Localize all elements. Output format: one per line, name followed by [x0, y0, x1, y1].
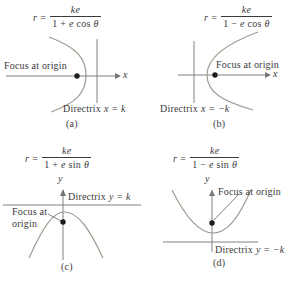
equation-b-lhs: r: [204, 12, 208, 23]
caption-b: (b): [213, 118, 225, 129]
directrix-label-b: Directrixx = −k: [160, 103, 229, 115]
focus-dot-b: [212, 72, 217, 77]
equation-b-denominator: 1 − e cos θ: [221, 16, 272, 29]
parabola-a: [49, 37, 86, 112]
equation-b-fraction: ke 1 − e cos θ: [221, 5, 272, 29]
equation-a-numerator: ke: [67, 5, 84, 16]
equation-a: r= ke 1 + e cos θ: [33, 5, 101, 29]
equation-c-denominator: 1 + e sin θ: [42, 157, 91, 170]
equation-a-denominator: 1 + e cos θ: [50, 16, 101, 29]
focus-label-b: Focus at origin: [216, 59, 279, 71]
axis-label-b: x: [273, 68, 278, 80]
parabola-b: [207, 32, 258, 110]
directrix-label-c: Directrixy = k: [68, 191, 131, 203]
equation-c-fraction: ke 1 + e sin θ: [42, 146, 91, 170]
caption-a: (a): [66, 118, 78, 129]
axis-label-a: x: [123, 69, 128, 81]
focus-dot-c: [60, 219, 65, 224]
equation-d-numerator: ke: [206, 146, 223, 157]
y-axis-arrow-c: [60, 189, 66, 196]
axis-label-c: y: [58, 173, 63, 185]
equation-b-rel: =: [211, 12, 217, 23]
x-axis-arrow-b: [265, 72, 271, 78]
equation-d: r= ke 1 − e sin θ: [173, 146, 239, 170]
equation-c-numerator: ke: [58, 146, 75, 157]
focus-label-d: Focus at origin: [218, 186, 281, 198]
axis-label-d: y: [205, 173, 210, 185]
focus-dot-a: [74, 73, 79, 78]
equation-d-fraction: ke 1 − e sin θ: [190, 146, 239, 170]
equation-a-lhs: r: [33, 12, 37, 23]
equation-b-numerator: ke: [238, 5, 255, 16]
x-axis-arrow-a: [115, 73, 121, 79]
directrix-label-a: Directrixx = k: [63, 103, 126, 115]
focus-label-c: Focus at origin: [12, 206, 47, 230]
equation-d-rel: =: [180, 153, 186, 164]
equation-a-rel: =: [40, 12, 46, 23]
equation-b: r= ke 1 − e cos θ: [204, 5, 272, 29]
caption-d: (d): [213, 257, 225, 268]
equation-d-denominator: 1 − e sin θ: [190, 157, 239, 170]
equation-d-lhs: r: [173, 153, 177, 164]
focus-dot-d: [209, 220, 214, 225]
y-axis-arrow-d: [209, 190, 215, 196]
equation-c-rel: =: [32, 153, 38, 164]
equation-c: r= ke 1 + e sin θ: [25, 146, 91, 170]
equation-a-fraction: ke 1 + e cos θ: [50, 5, 101, 29]
conic-figure: r= ke 1 + e cos θ Focus at origin x Dire…: [0, 0, 300, 292]
directrix-label-d: Directrixy = −k: [215, 244, 284, 256]
focus-label-a: Focus at origin: [4, 60, 67, 72]
caption-c: (c): [61, 261, 73, 272]
equation-c-lhs: r: [25, 153, 29, 164]
